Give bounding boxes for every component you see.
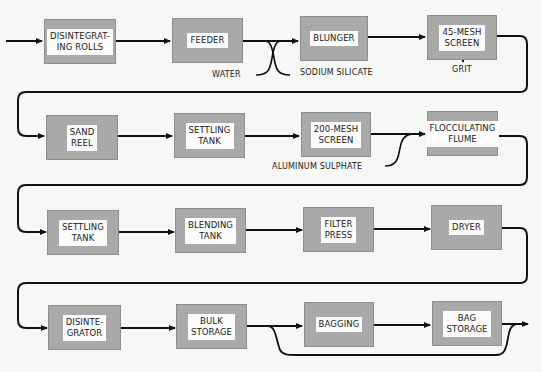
step-label: SETTLING TANK <box>59 220 107 246</box>
step-label: 200-MESH SCREEN <box>311 122 362 148</box>
step-settling-tank-1: SETTLING TANK <box>174 113 245 158</box>
step-label: 45-MESH SCREEN <box>439 25 484 51</box>
input-aluminum-sulphate-label: ALUMINUM SULPHATE <box>272 162 362 171</box>
step-disintegrator: DISINTE- GRATOR <box>48 305 121 350</box>
input-water-label: WATER <box>212 70 241 79</box>
step-label: BAGGING <box>316 317 363 332</box>
step-label: FLOCCULATING FLUME <box>426 121 498 147</box>
step-bagging: BAGGING <box>304 302 374 347</box>
step-label: DRYER <box>449 220 484 235</box>
step-disintegrating-rolls: DISINTEGRAT- ING ROLLS <box>44 19 116 64</box>
step-flocculating-flume: FLOCCULATING FLUME <box>427 111 498 156</box>
step-label: FILTER PRESS <box>321 217 355 243</box>
step-label: BAG STORAGE <box>443 311 490 337</box>
step-label: BULK STORAGE <box>188 314 235 340</box>
step-label: BLENDING TANK <box>185 218 236 244</box>
step-bag-storage: BAG STORAGE <box>432 301 502 346</box>
step-200-mesh-screen: 200-MESH SCREEN <box>301 112 371 157</box>
step-feeder: FEEDER <box>172 18 243 63</box>
step-label: DISINTE- GRATOR <box>63 315 107 341</box>
process-flow-diagram: DISINTEGRAT- ING ROLLS FEEDER BLUNGER 45… <box>0 0 542 372</box>
output-grit-label: GRIT <box>452 65 472 74</box>
step-label: BLUNGER <box>310 31 357 46</box>
step-blunger: BLUNGER <box>300 16 368 61</box>
step-label: FEEDER <box>187 33 227 48</box>
step-filter-press: FILTER PRESS <box>303 207 374 252</box>
step-label: SAND REEL <box>67 125 98 151</box>
step-sand-reel: SAND REEL <box>46 115 118 160</box>
step-bulk-storage: BULK STORAGE <box>176 304 247 349</box>
step-settling-tank-2: SETTLING TANK <box>47 210 119 255</box>
step-blending-tank: BLENDING TANK <box>175 208 246 253</box>
step-dryer: DRYER <box>431 205 502 250</box>
step-45-mesh-screen: 45-MESH SCREEN <box>427 15 497 60</box>
step-label: DISINTEGRAT- ING ROLLS <box>47 29 113 55</box>
input-sodium-silicate-label: SODIUM SILICATE <box>300 68 373 77</box>
step-label: SETTLING TANK <box>186 123 234 149</box>
